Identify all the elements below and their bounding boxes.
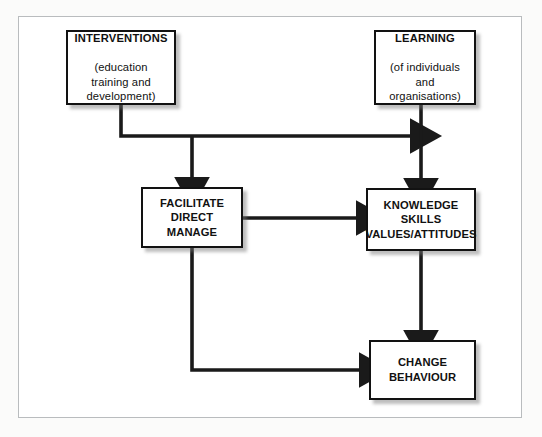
diagram-page: INTERVENTIONS (education training and de… <box>0 0 542 437</box>
node-facilitate-label: FACILITATE DIRECT MANAGE <box>160 196 224 240</box>
node-interventions-subtext: (education training and development) <box>74 60 167 104</box>
connector-facilitate-to-change <box>192 248 363 370</box>
node-knowledge-skills-values[interactable]: KNOWLEDGE SKILLS VALUES/ATTITUDES <box>366 188 476 251</box>
node-interventions-heading: INTERVENTIONS <box>74 31 167 46</box>
node-interventions-text: INTERVENTIONS (education training and de… <box>74 17 167 119</box>
node-learning-subtext: (of individuals and organisations) <box>389 60 461 104</box>
node-change-label: CHANGE BEHAVIOUR <box>389 355 456 384</box>
node-learning[interactable]: LEARNING (of individuals and organisatio… <box>374 30 476 105</box>
node-interventions[interactable]: INTERVENTIONS (education training and de… <box>66 30 176 105</box>
node-learning-text: LEARNING (of individuals and organisatio… <box>389 17 461 119</box>
node-learning-heading: LEARNING <box>389 31 461 46</box>
node-change-behaviour[interactable]: CHANGE BEHAVIOUR <box>369 340 476 400</box>
node-facilitate-direct-manage[interactable]: FACILITATE DIRECT MANAGE <box>141 187 243 248</box>
node-knowledge-label: KNOWLEDGE SKILLS VALUES/ATTITUDES <box>365 198 476 242</box>
